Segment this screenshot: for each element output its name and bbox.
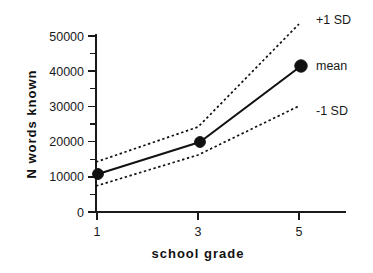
- x-tick-label-1: 1: [94, 225, 101, 239]
- data-point-mean-grade-3: [195, 137, 206, 148]
- series-label-plus-1-sd: +1 SD: [316, 13, 351, 27]
- y-tick-label-20000: 20000: [49, 135, 84, 149]
- y-tick-label-10000: 10000: [49, 170, 84, 184]
- x-tick-label-5: 5: [296, 225, 303, 239]
- series-label-minus-1-sd: -1 SD: [316, 104, 348, 118]
- y-axis-title: N words known: [24, 69, 39, 178]
- x-tick-label-3: 3: [195, 225, 202, 239]
- y-tick-label-50000: 50000: [49, 30, 84, 44]
- y-tick-label-40000: 40000: [49, 65, 84, 79]
- y-tick-label-0: 0: [77, 206, 84, 220]
- x-axis-title: school grade: [152, 246, 245, 261]
- chart-figure: 0 10000 20000 30000 40000 50000 1 3 5 sc…: [0, 0, 373, 273]
- line-chart-canvas: 0 10000 20000 30000 40000 50000 1 3 5 sc…: [0, 0, 373, 273]
- series-label-mean: mean: [316, 59, 347, 73]
- data-point-mean-grade-1: [93, 169, 104, 180]
- y-tick-label-30000: 30000: [49, 100, 84, 114]
- data-point-mean-grade-5: [295, 60, 307, 72]
